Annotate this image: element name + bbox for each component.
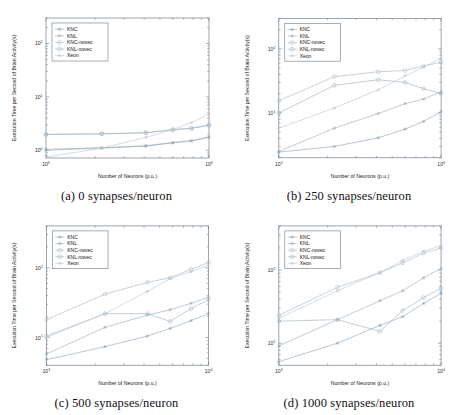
- legend-label: KNL: [67, 33, 77, 39]
- data-point-marker: [146, 335, 149, 338]
- series-knl: [277, 90, 443, 153]
- chart-svg-a: 103104100101102Number of Neurons (p.u.)E…: [0, 0, 233, 208]
- legend-label: KNL-novec: [67, 255, 92, 260]
- data-point-marker: [189, 319, 192, 322]
- legend-label: KNL-novec: [300, 47, 325, 52]
- data-point-marker: [146, 290, 149, 293]
- figure-grid: 103104100101102Number of Neurons (p.u.)E…: [0, 0, 465, 415]
- series-line: [46, 137, 209, 149]
- panel-caption-a: (a) 0 synapses/neuron: [0, 189, 233, 204]
- series-knc: [277, 110, 443, 154]
- legend-label: KNC: [300, 235, 311, 240]
- series-line: [279, 62, 441, 101]
- legend-label: KNC: [67, 235, 78, 240]
- data-point-marker: [378, 299, 381, 302]
- series-line: [46, 300, 208, 336]
- legend-label: KNL-novec: [67, 46, 92, 52]
- tick-label: 102: [35, 40, 43, 46]
- tick-label: 102: [268, 267, 276, 273]
- series-line: [46, 297, 208, 354]
- chart-svg-c: 103104101102Number of Neurons (p.u.)Exec…: [0, 208, 233, 415]
- data-point-marker: [103, 345, 106, 348]
- y-axis-label: Execution Time per Second of Brain Activ…: [244, 35, 250, 141]
- chart-panel-a: 103104100101102Number of Neurons (p.u.)E…: [0, 0, 233, 208]
- tick-label: 103: [42, 161, 50, 167]
- series-knl-novec: [44, 298, 210, 338]
- tick-label: 101: [35, 334, 43, 340]
- data-point-marker: [403, 102, 406, 105]
- tick-label: 103: [43, 368, 51, 374]
- x-axis-label: Number of Neurons (p.u.): [331, 380, 390, 386]
- data-point-marker: [336, 342, 339, 345]
- x-axis-label: Number of Neurons (p.u.): [331, 173, 390, 179]
- panel-caption-b: (b) 250 synapses/neuron: [233, 189, 465, 204]
- panel-caption-c: (c) 500 synapses/neuron: [0, 396, 233, 411]
- legend-label: Xeon: [300, 261, 312, 266]
- data-point-marker: [377, 136, 380, 139]
- tick-label: 101: [35, 94, 43, 100]
- series-line: [279, 58, 441, 128]
- tick-label: 104: [437, 161, 445, 167]
- data-point-marker: [377, 112, 380, 115]
- tick-label: 102: [268, 46, 276, 52]
- legend-label: KNL: [300, 241, 310, 246]
- series-line: [46, 125, 209, 134]
- data-point-marker: [377, 88, 380, 91]
- legend-label: Xeon: [300, 54, 312, 59]
- series-xeon: [44, 112, 210, 158]
- data-point-marker: [168, 308, 171, 311]
- data-point-marker: [171, 141, 174, 144]
- tick-label: 104: [205, 368, 213, 374]
- panel-caption-d: (d) 1000 synapses/neuron: [233, 396, 465, 411]
- series-knc-novec: [44, 260, 210, 321]
- data-point-marker: [403, 74, 406, 77]
- legend-label: KNL-novec: [300, 255, 325, 260]
- legend-label: Xeon: [67, 52, 79, 58]
- chart-svg-b: 103104101102Number of Neurons (p.u.)Exec…: [233, 0, 465, 208]
- tick-label: 104: [437, 368, 445, 374]
- data-point-marker: [144, 136, 147, 139]
- data-point-marker: [189, 302, 192, 305]
- tick-label: 103: [275, 368, 283, 374]
- series-line: [279, 268, 441, 345]
- series-xeon: [45, 263, 211, 339]
- series-knl-novec: [277, 78, 443, 115]
- y-axis-label: Execution Time per Second of Brain Activ…: [11, 242, 17, 348]
- chart-panel-b: 103104101102Number of Neurons (p.u.)Exec…: [233, 0, 465, 208]
- chart-panel-d: 103104101102Number of Neurons (p.u.)Exec…: [233, 208, 465, 415]
- data-point-marker: [100, 147, 103, 150]
- legend-label: KNC: [67, 26, 78, 32]
- series-knl: [45, 296, 211, 356]
- data-point-marker: [403, 128, 406, 131]
- y-axis-label: Execution Time per Second of Brain Activ…: [244, 242, 250, 348]
- series-knc: [45, 312, 211, 361]
- chart-panel-c: 103104101102Number of Neurons (p.u.)Exec…: [0, 208, 233, 415]
- tick-label: 102: [35, 265, 43, 271]
- legend-label: Xeon: [67, 261, 79, 266]
- tick-label: 100: [35, 147, 43, 153]
- tick-label: 101: [268, 110, 276, 116]
- data-point-marker: [333, 127, 336, 130]
- legend-label: KNC: [300, 27, 311, 32]
- x-axis-label: Number of Neurons (p.u.): [98, 380, 157, 386]
- series-knl: [44, 136, 210, 152]
- y-axis-label: Execution Time per Second of Brain Activ…: [11, 35, 17, 142]
- x-axis-label: Number of Neurons (p.u.): [98, 173, 157, 179]
- data-point-marker: [333, 145, 336, 148]
- legend-label: KNL: [67, 241, 77, 246]
- data-point-marker: [103, 326, 106, 329]
- series-knc-novec: [277, 60, 443, 102]
- tick-label: 101: [268, 340, 276, 346]
- data-point-marker: [168, 327, 171, 330]
- series-knl-novec: [44, 123, 211, 136]
- series-line: [279, 112, 441, 152]
- series-knc: [44, 135, 210, 150]
- data-point-marker: [422, 120, 425, 123]
- data-point-marker: [378, 324, 381, 327]
- legend-label: KNC-novec: [67, 248, 93, 253]
- data-point-marker: [333, 106, 336, 109]
- tick-label: 103: [275, 161, 283, 167]
- series-line: [46, 114, 209, 157]
- series-line: [46, 125, 209, 134]
- legend-label: KNC-novec: [300, 40, 326, 45]
